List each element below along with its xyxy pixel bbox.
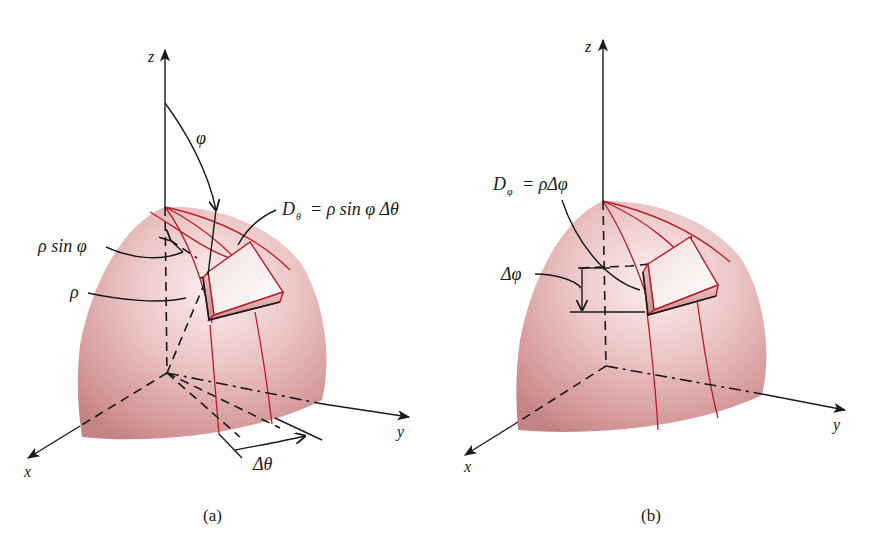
x-axis-label: x — [463, 458, 471, 475]
y-axis-label: y — [395, 423, 405, 441]
panel-b: z x y D φ = ρΔφ Δφ (b) — [463, 38, 845, 525]
spherical-coordinates-figure: z x y φ ρ sin φ ρ D θ = ρ sin φ Δθ Δθ (a… — [0, 0, 869, 548]
y-axis — [762, 394, 845, 410]
sphere-octant-surface — [516, 201, 766, 432]
phi-arc-arrow — [165, 103, 216, 210]
y-axis-label: y — [831, 416, 841, 434]
rho-label: ρ — [69, 282, 79, 302]
z-axis-label: z — [584, 38, 592, 55]
y-axis — [323, 404, 409, 417]
caption-a: (a) — [203, 506, 222, 525]
svg-text:D: D — [281, 199, 295, 219]
svg-text:= ρ sin φ Δθ: = ρ sin φ Δθ — [310, 199, 399, 219]
delta-phi-label: Δφ — [500, 264, 522, 284]
phi-label: φ — [196, 128, 206, 148]
d-phi-formula: D φ = ρΔφ — [492, 174, 568, 197]
delta-theta-label: Δθ — [252, 454, 273, 474]
x-axis-label: x — [23, 463, 31, 480]
d-theta-formula: D θ = ρ sin φ Δθ — [281, 199, 399, 222]
svg-text:D: D — [492, 174, 506, 194]
x-axis — [465, 422, 518, 455]
caption-b: (b) — [641, 506, 661, 525]
svg-text:θ: θ — [296, 211, 301, 222]
rho-sin-phi-label: ρ sin φ — [37, 236, 87, 256]
svg-text:φ: φ — [507, 186, 513, 197]
panel-a: z x y φ ρ sin φ ρ D θ = ρ sin φ Δθ Δθ (a… — [23, 48, 409, 525]
svg-text:= ρΔφ: = ρΔφ — [522, 174, 568, 194]
z-axis-label: z — [147, 48, 155, 65]
x-axis — [28, 426, 80, 458]
